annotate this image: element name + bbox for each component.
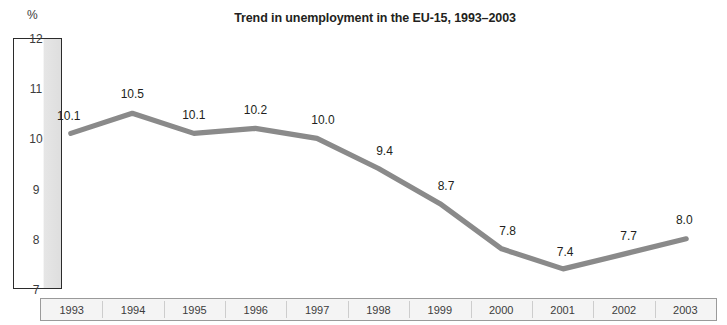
x-axis-year-2003: 2003 (655, 299, 716, 320)
data-point-label-2000: 7.8 (499, 224, 516, 238)
x-axis-year-strip: 1993199419951996199719981999200020012002… (40, 298, 717, 321)
x-axis-year-1995: 1995 (164, 299, 225, 320)
unemployment-line-chart: Trend in unemployment in the EU-15, 1993… (0, 0, 727, 325)
x-axis-year-1996: 1996 (225, 299, 286, 320)
x-axis-year-1999: 1999 (409, 299, 470, 320)
plot-area: 10.110.510.110.210.09.48.77.87.47.78.0 (0, 0, 727, 298)
data-point-label-1995: 10.1 (182, 108, 205, 122)
data-point-label-1997: 10.0 (311, 113, 334, 127)
series-line-svg (0, 0, 727, 298)
data-point-label-2003: 8.0 (676, 213, 693, 227)
series-polyline (71, 113, 686, 269)
data-point-label-2002: 7.7 (620, 229, 637, 243)
data-point-label-1993: 10.1 (57, 109, 80, 123)
x-axis-year-1993: 1993 (41, 299, 102, 320)
x-axis-year-1998: 1998 (348, 299, 409, 320)
data-point-label-1996: 10.2 (244, 103, 267, 117)
x-axis-year-1997: 1997 (286, 299, 347, 320)
data-point-label-2001: 7.4 (557, 245, 574, 259)
x-axis-year-2002: 2002 (593, 299, 654, 320)
x-axis-year-2000: 2000 (471, 299, 532, 320)
data-point-label-1999: 8.7 (438, 179, 455, 193)
x-axis-year-2001: 2001 (532, 299, 593, 320)
data-point-label-1994: 10.5 (121, 87, 144, 101)
data-point-label-1998: 9.4 (376, 144, 393, 158)
x-axis-year-1994: 1994 (102, 299, 163, 320)
